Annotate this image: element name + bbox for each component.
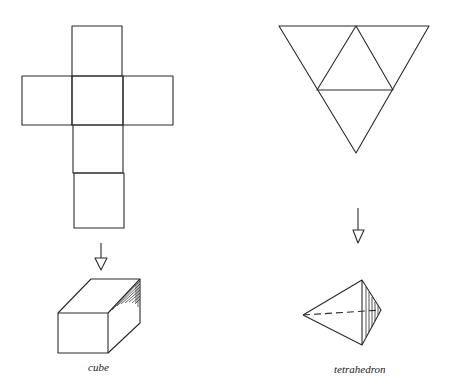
cube-arrow-icon <box>95 243 107 270</box>
cube-net-bottom-face <box>74 173 124 228</box>
diagram-canvas <box>0 0 450 386</box>
tetrahedron-label: tetrahedron <box>334 363 386 375</box>
cube-net-right-face <box>123 76 173 125</box>
tetrahedron-shading <box>366 287 378 337</box>
tetrahedron-arrow-icon <box>353 208 364 243</box>
cube-solid <box>58 279 140 353</box>
cube-net-lower-face <box>73 125 123 173</box>
cube-net-left-face <box>22 76 72 125</box>
cube-net-top-face <box>72 26 122 76</box>
tetrahedron-net-center-face <box>317 26 393 90</box>
cube-label: cube <box>88 361 109 373</box>
cube-net-center-face <box>72 76 123 125</box>
tetrahedron-solid <box>303 280 381 345</box>
cube-shading <box>112 281 140 310</box>
tetrahedron-net <box>279 26 429 153</box>
cube-net <box>22 26 173 228</box>
